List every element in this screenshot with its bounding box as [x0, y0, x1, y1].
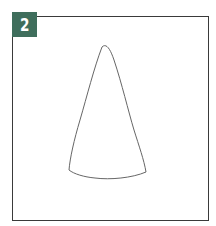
- cone-outline-shape: [0, 0, 216, 226]
